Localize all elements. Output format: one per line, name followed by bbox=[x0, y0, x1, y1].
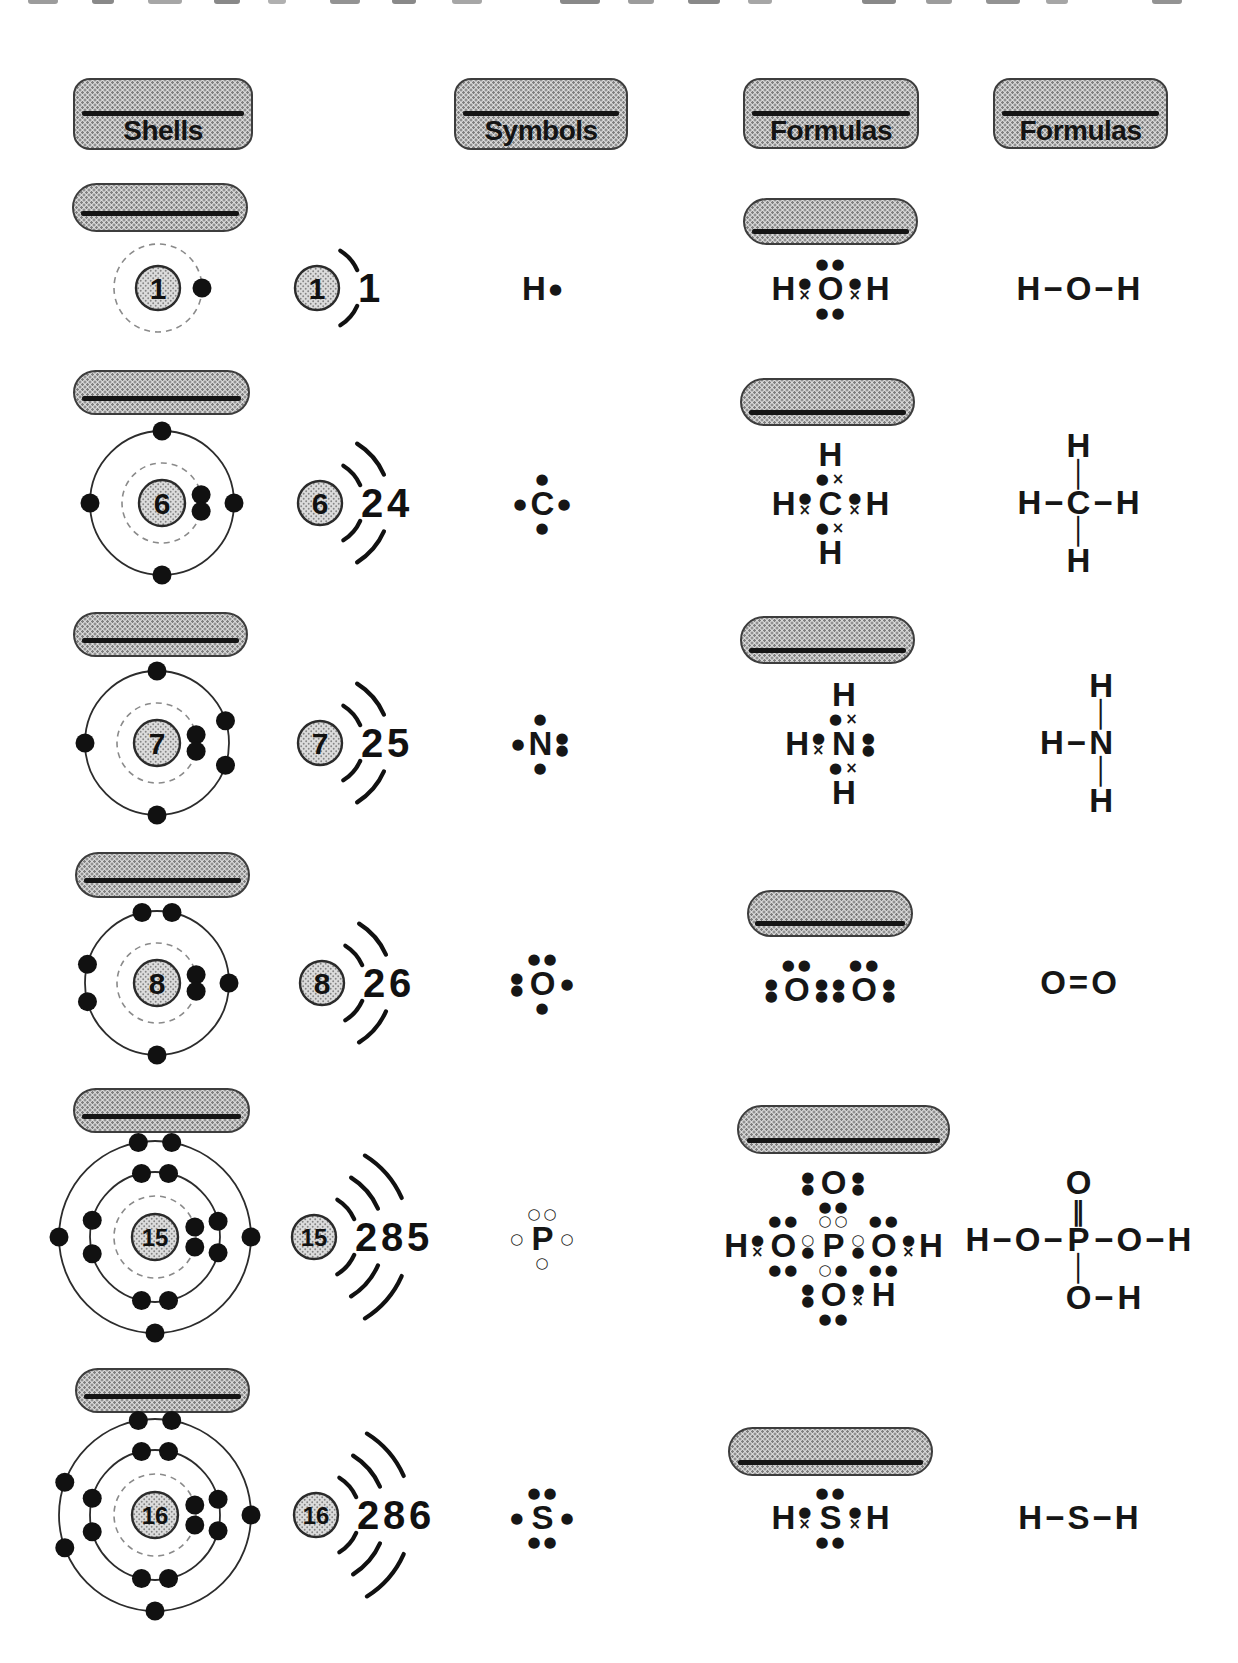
atom-symbol: S bbox=[817, 1501, 842, 1534]
atom-symbol: H bbox=[769, 1501, 796, 1534]
redacted-label-bar-phosphoric-acid bbox=[737, 1105, 950, 1154]
atom-symbol: H bbox=[870, 1278, 897, 1311]
electron-pair: ●● bbox=[815, 307, 844, 319]
atom-symbol: H bbox=[1038, 727, 1065, 760]
atom-symbol: H bbox=[964, 1224, 991, 1257]
shell-notation-hydrogen: 11 bbox=[287, 240, 409, 340]
bond: − bbox=[1065, 727, 1087, 760]
electron-pair: ●● bbox=[832, 977, 845, 1001]
column-header-formulas: Formulas bbox=[743, 78, 919, 149]
electron-pair: ●× bbox=[829, 762, 858, 774]
atom-symbol: H bbox=[1015, 487, 1042, 520]
bond: │ bbox=[1091, 762, 1111, 782]
electron-pair: ●× bbox=[798, 276, 811, 300]
redacted-label-bar-ammonia bbox=[740, 616, 915, 664]
atom-symbol: H bbox=[1114, 487, 1141, 520]
atom-symbol: C bbox=[1065, 487, 1092, 520]
header-label: Symbols bbox=[456, 115, 626, 147]
electron-dot: ● bbox=[533, 522, 550, 534]
bohr-diagram-phosphorus: 15 bbox=[48, 1130, 262, 1348]
cropped-glyph-fragment bbox=[268, 0, 286, 4]
electron-dot: ● bbox=[555, 497, 572, 509]
redaction-rule bbox=[81, 211, 239, 216]
atom-symbol: H bbox=[830, 678, 857, 711]
bond: − bbox=[1091, 1501, 1113, 1534]
electron-pair: ●× bbox=[798, 1505, 811, 1529]
svg-text:2: 2 bbox=[361, 721, 383, 765]
electron-pair: ●● bbox=[852, 1170, 865, 1194]
electron-dot: ● bbox=[533, 1002, 550, 1014]
atom-symbol: H bbox=[1015, 272, 1042, 305]
svg-text:5: 5 bbox=[407, 1215, 429, 1259]
bohr-diagram-carbon: 6 bbox=[62, 403, 262, 607]
atom-symbol: H bbox=[1087, 784, 1114, 817]
column-header-shells: Shells bbox=[73, 78, 253, 150]
electron-pair: ●× bbox=[848, 491, 861, 515]
bond: − bbox=[1041, 1224, 1063, 1257]
atom-symbol: H bbox=[1166, 1224, 1193, 1257]
atom-symbol: O bbox=[1089, 966, 1118, 999]
atom-symbol: C bbox=[817, 487, 844, 520]
svg-text:6: 6 bbox=[409, 1493, 431, 1537]
atom-symbol: O bbox=[1038, 966, 1067, 999]
bond: = bbox=[1067, 966, 1089, 999]
bond: − bbox=[1042, 487, 1064, 520]
electron-pair: ●× bbox=[816, 522, 845, 534]
atom-symbol: N bbox=[527, 727, 554, 760]
atom-symbol: O bbox=[869, 1229, 898, 1262]
redaction-rule bbox=[82, 1114, 241, 1119]
bond: − bbox=[1092, 272, 1114, 305]
svg-text:7: 7 bbox=[149, 727, 166, 760]
redaction-rule bbox=[738, 1460, 923, 1465]
atom-symbol: O bbox=[849, 973, 878, 1006]
electron-dot: ● bbox=[531, 713, 548, 725]
electron-pair: ●● bbox=[849, 959, 878, 971]
electron-pair: ●● bbox=[869, 1264, 898, 1276]
atom-symbol: S bbox=[1065, 1501, 1090, 1534]
electron-pair: ●● bbox=[815, 1487, 844, 1499]
cropped-glyph-fragment bbox=[392, 0, 416, 4]
atom-symbol: H bbox=[1016, 1501, 1043, 1534]
electron-pair: ●× bbox=[902, 1233, 915, 1257]
shell-notation-oxygen: 826 bbox=[292, 915, 440, 1055]
cropped-glyph-fragment bbox=[1046, 0, 1068, 4]
structural-formula-methane: H│H−C−H│H bbox=[1015, 429, 1140, 577]
lewis-symbol-hydrogen: H● bbox=[520, 272, 564, 305]
electron-pair: ●● bbox=[862, 731, 875, 755]
electron-pair: ●× bbox=[829, 713, 858, 725]
atom-symbol: H bbox=[864, 272, 891, 305]
atom-symbol: O bbox=[768, 1229, 797, 1262]
electron-pair: ●● bbox=[510, 971, 523, 995]
cropped-glyph-fragment bbox=[862, 0, 896, 4]
atom-symbol: H bbox=[817, 438, 844, 471]
svg-text:2: 2 bbox=[363, 961, 385, 1005]
lewis-symbol-nitrogen: ●●N●●● bbox=[509, 713, 570, 774]
atom-symbol: O bbox=[816, 272, 845, 305]
svg-text:1: 1 bbox=[150, 272, 167, 305]
svg-text:15: 15 bbox=[142, 1224, 169, 1251]
lewis-formula-phosphoric-acid: ●●O●●●●●●○○●●H●×O○●P○●O●×H●●○●●●●●O●×H●● bbox=[722, 1166, 944, 1325]
electron-dot: ● bbox=[508, 1511, 525, 1523]
atom-symbol: H bbox=[769, 272, 796, 305]
bohr-diagram-sulfur: 16 bbox=[48, 1408, 262, 1626]
electron-pair: ●× bbox=[799, 491, 812, 515]
electron-pair: ●● bbox=[818, 1313, 847, 1325]
atom-symbol: H bbox=[863, 487, 890, 520]
header-label: Shells bbox=[75, 115, 251, 147]
bond: − bbox=[1143, 1224, 1165, 1257]
svg-text:16: 16 bbox=[142, 1502, 169, 1529]
electron-pair: ●× bbox=[816, 473, 845, 485]
redacted-label-bar-phosphorus bbox=[73, 1088, 250, 1133]
cropped-glyph-fragment bbox=[452, 0, 482, 4]
redaction-rule bbox=[84, 1394, 241, 1399]
atom-symbol: O bbox=[1115, 1224, 1144, 1257]
redaction-rule bbox=[82, 396, 241, 401]
svg-text:4: 4 bbox=[387, 481, 410, 525]
bond: │ bbox=[1068, 1259, 1088, 1279]
electron-pair: ●× bbox=[849, 1505, 862, 1529]
electron-pair: ●● bbox=[527, 1536, 556, 1548]
structural-formula-oxygen-molecule: O=O bbox=[1038, 966, 1118, 999]
electron-dot: ● bbox=[511, 497, 528, 509]
electron-pair: ●● bbox=[782, 959, 811, 971]
cropped-glyph-fragment bbox=[926, 0, 952, 4]
